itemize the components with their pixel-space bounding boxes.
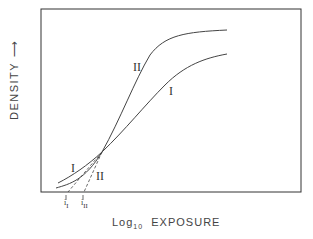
curve-i	[58, 54, 227, 183]
curve-i-label: I	[169, 84, 173, 99]
inertia-i-label: iI	[64, 198, 68, 209]
curve-i-lower-label: I	[71, 161, 75, 176]
y-axis-label: DENSITY ⟶	[8, 40, 21, 120]
x-axis-label: Log10 EXPOSURE	[112, 216, 220, 230]
curve-ii-label: II	[133, 60, 141, 75]
plot-frame	[41, 9, 301, 192]
chart-canvas	[0, 0, 313, 239]
inertia-ii-label: iII	[81, 198, 88, 209]
curve-ii-lower-label: II	[96, 169, 104, 184]
curve-ii	[56, 30, 227, 188]
